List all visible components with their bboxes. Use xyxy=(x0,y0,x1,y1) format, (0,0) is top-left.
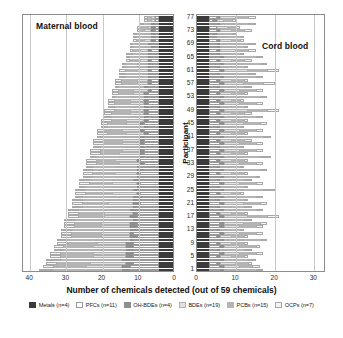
table-row xyxy=(197,69,324,72)
bar-segment-bdes xyxy=(220,206,232,209)
x-tick-label: 20 xyxy=(271,274,278,281)
table-row xyxy=(197,255,324,258)
bar-segment-bdes xyxy=(119,156,141,159)
bar-segment-bdes xyxy=(220,39,232,42)
bar-segment-pcbs xyxy=(248,109,268,112)
bar-segment-ocps xyxy=(256,142,264,145)
bar-segment-bdes xyxy=(220,212,232,215)
bar-segment-pfcs xyxy=(144,162,158,165)
bar-segment-pcbs xyxy=(112,119,126,122)
bar-segment-pcbs xyxy=(101,149,123,152)
bar-segment-ocps xyxy=(260,96,268,99)
bar-segment-pcbs xyxy=(248,215,268,218)
stacked-bar xyxy=(93,142,173,145)
bar-segment-ocps xyxy=(256,129,264,132)
bar-segment-pfcs xyxy=(209,36,217,39)
table-row xyxy=(197,202,324,205)
bar-segment-pcbs xyxy=(232,242,244,245)
gridline xyxy=(66,15,67,271)
bar-segment-pfcs xyxy=(209,116,221,119)
bar-segment-ocps xyxy=(104,116,111,119)
cord-blood-label: Cord blood xyxy=(262,41,308,51)
bar-segment-pcbs xyxy=(54,265,87,268)
bar-segment-pfcs xyxy=(148,102,159,105)
bar-segment-metals xyxy=(159,66,173,69)
bar-segment-pfcs xyxy=(151,76,158,79)
table-row xyxy=(197,142,324,145)
bar-segment-pfcs xyxy=(209,16,217,19)
bar-segment-ocps xyxy=(248,16,256,19)
table-row xyxy=(23,109,173,112)
bar-segment-pcbs xyxy=(72,232,101,235)
bar-segment-metals xyxy=(197,63,209,66)
bar-segment-metals xyxy=(197,92,209,95)
bar-segment-metals xyxy=(197,186,209,189)
bar-segment-pfcs xyxy=(148,106,159,109)
bar-segment-ocps xyxy=(115,82,122,85)
bar-segment-ocps xyxy=(244,29,252,32)
bar-segment-ohbdes xyxy=(130,235,137,238)
stacked-bar xyxy=(140,23,173,26)
bar-segment-metals xyxy=(197,232,209,235)
bar-segment-metals xyxy=(197,235,209,238)
bar-segment-ocps xyxy=(256,76,264,79)
bar-segment-ocps xyxy=(79,179,90,182)
bar-segment-pfcs xyxy=(209,132,217,135)
stacked-bar xyxy=(126,56,173,59)
stacked-bar xyxy=(137,29,173,32)
bar-segment-bdes xyxy=(224,162,240,165)
legend-item-pcbs: PCBs (n=15) xyxy=(227,302,268,308)
stacked-bar xyxy=(197,232,263,235)
stacked-bar xyxy=(86,166,173,169)
table-row xyxy=(197,19,324,22)
bar-segment-ocps xyxy=(256,269,264,272)
table-row xyxy=(23,129,173,132)
bar-segment-pcbs xyxy=(232,249,244,252)
table-row xyxy=(23,136,173,139)
bar-segment-pfcs xyxy=(209,106,217,109)
stacked-bar xyxy=(197,56,263,59)
bar-segment-bdes xyxy=(90,262,126,265)
participant-tick-label: 69 xyxy=(187,40,194,46)
bar-segment-pfcs xyxy=(137,222,159,225)
bar-segment-metals xyxy=(197,39,209,42)
stacked-bar xyxy=(119,69,173,72)
bar-segment-bdes xyxy=(220,43,236,46)
bar-segment-pfcs xyxy=(209,209,221,212)
bar-segment-metals xyxy=(159,43,173,46)
legend-label: BDEs (n=19) xyxy=(188,302,220,308)
bar-segment-bdes xyxy=(224,265,240,268)
stacked-bar xyxy=(197,142,263,145)
stacked-bar xyxy=(197,106,248,109)
table-row xyxy=(23,225,173,228)
bar-segment-ocps xyxy=(104,112,111,115)
bar-segment-bdes xyxy=(220,262,236,265)
bar-segment-bdes xyxy=(220,179,232,182)
stacked-bar xyxy=(64,225,173,228)
bar-segment-metals xyxy=(197,109,209,112)
bar-segment-pcbs xyxy=(61,259,90,262)
bar-segment-metals xyxy=(159,46,173,49)
bar-segment-pcbs xyxy=(86,189,108,192)
bar-segment-metals xyxy=(159,119,173,122)
bar-segment-pcbs xyxy=(244,169,260,172)
bar-segment-pfcs xyxy=(209,86,217,89)
table-row xyxy=(23,33,173,36)
legend-swatch-icon xyxy=(275,302,282,308)
bar-segment-pfcs xyxy=(209,156,221,159)
bar-segment-bdes xyxy=(130,99,144,102)
bar-segment-ocps xyxy=(244,249,252,252)
bar-segment-ocps xyxy=(68,215,79,218)
bar-segment-ocps xyxy=(244,206,252,209)
bar-segment-bdes xyxy=(224,202,244,205)
bar-segment-metals xyxy=(159,182,173,185)
stacked-bar xyxy=(115,82,173,85)
bar-segment-pcbs xyxy=(119,89,133,92)
table-row xyxy=(23,63,173,66)
bar-segment-ocps xyxy=(83,172,94,175)
bar-segment-metals xyxy=(197,43,209,46)
stacked-bar xyxy=(197,19,236,22)
bar-segment-metals xyxy=(197,166,209,169)
bar-segment-pfcs xyxy=(151,49,158,52)
bar-segment-metals xyxy=(197,102,209,105)
